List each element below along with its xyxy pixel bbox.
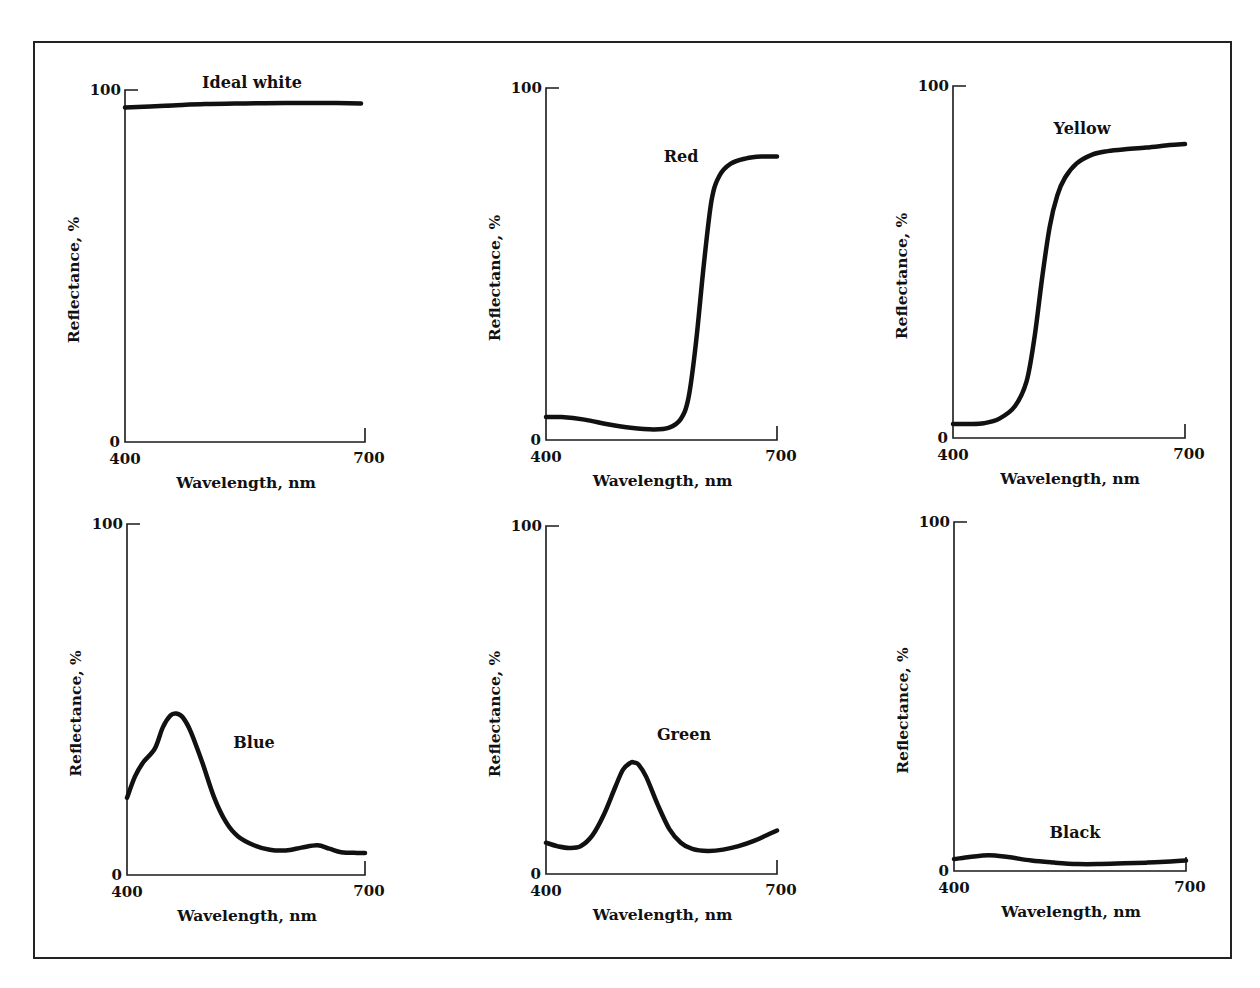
chart-yellow: 1000400700Wavelength, nmReflectance, %Ye… [892, 77, 1205, 488]
x-axis-label: Wavelength, nm [176, 906, 317, 925]
reflectance-curve-green [546, 762, 777, 851]
series-label: Black [1050, 823, 1102, 842]
y-tick-max: 100 [918, 77, 949, 95]
series-label: Green [657, 725, 711, 744]
y-tick-min: 0 [938, 429, 948, 447]
x-tick-min: 400 [937, 446, 968, 464]
y-tick-max: 100 [919, 513, 950, 531]
y-tick-min: 0 [110, 433, 120, 451]
x-tick-min: 400 [530, 882, 561, 900]
y-tick-min: 0 [939, 862, 949, 880]
x-axis-label: Wavelength, nm [999, 469, 1140, 488]
y-axis-label: Reflectance, % [485, 214, 504, 341]
axes [546, 88, 777, 440]
chart-green: 1000400700Wavelength, nmReflectance, %Gr… [485, 517, 797, 924]
y-axis-label: Reflectance, % [892, 212, 911, 339]
series-label: Blue [233, 733, 274, 752]
y-tick-min: 0 [531, 431, 541, 449]
series-label: Ideal white [202, 73, 302, 92]
axes [125, 90, 365, 442]
x-axis-label: Wavelength, nm [175, 473, 316, 492]
axes [127, 524, 365, 875]
x-axis-label: Wavelength, nm [592, 471, 733, 490]
chart-ideal-white: 1000400700Wavelength, nmReflectance, %Id… [64, 73, 385, 492]
reflectance-curve-red [546, 156, 777, 429]
reflectance-charts-grid: 1000400700Wavelength, nmReflectance, %Id… [0, 0, 1260, 988]
x-axis-label: Wavelength, nm [1000, 902, 1141, 921]
x-tick-max: 700 [1173, 445, 1204, 463]
chart-blue: 1000400700Wavelength, nmReflectance, %Bl… [66, 515, 385, 925]
series-label: Red [664, 147, 699, 166]
y-axis-label: Reflectance, % [893, 647, 912, 774]
x-tick-max: 700 [765, 447, 796, 465]
y-axis-label: Reflectance, % [64, 216, 83, 343]
x-tick-min: 400 [938, 879, 969, 897]
reflectance-curve-ideal-white [125, 103, 361, 108]
axes [546, 526, 777, 874]
x-axis-label: Wavelength, nm [592, 905, 733, 924]
y-tick-min: 0 [112, 866, 122, 884]
x-tick-max: 700 [353, 882, 384, 900]
reflectance-curve-yellow [953, 144, 1185, 424]
x-tick-min: 400 [530, 448, 561, 466]
series-label: Yellow [1053, 119, 1112, 138]
y-tick-min: 0 [531, 865, 541, 883]
y-tick-max: 100 [92, 515, 123, 533]
y-axis-label: Reflectance, % [485, 650, 504, 777]
x-tick-max: 700 [765, 881, 796, 899]
axes [954, 522, 1186, 871]
y-axis-label: Reflectance, % [66, 650, 85, 777]
axes [953, 86, 1185, 438]
x-tick-min: 400 [111, 883, 142, 901]
reflectance-curve-black [954, 855, 1186, 864]
chart-black: 1000400700Wavelength, nmReflectance, %Bl… [893, 513, 1206, 921]
x-tick-min: 400 [109, 450, 140, 468]
x-tick-max: 700 [353, 449, 384, 467]
y-tick-max: 100 [511, 79, 542, 97]
y-tick-max: 100 [90, 81, 121, 99]
x-tick-max: 700 [1174, 878, 1205, 896]
y-tick-max: 100 [511, 517, 542, 535]
chart-red: 1000400700Wavelength, nmReflectance, %Re… [485, 79, 797, 490]
